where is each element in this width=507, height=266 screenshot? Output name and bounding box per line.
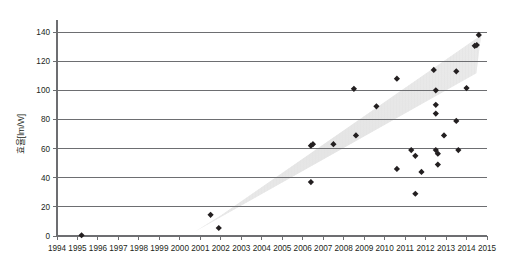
x-tick-label-2001: 2001 <box>191 244 210 253</box>
x-tick-label-2014: 2014 <box>457 244 476 253</box>
data-point <box>433 111 439 117</box>
data-point <box>476 32 482 38</box>
y-tick-label-120: 120 <box>36 57 50 66</box>
scatter-chart: 020406080100120140 199419951996199719981… <box>0 0 507 266</box>
data-point <box>351 86 357 92</box>
x-tick-label-2013: 2013 <box>437 244 456 253</box>
data-point <box>441 132 447 138</box>
trend-band-gradient <box>196 35 482 231</box>
x-tick-label-2004: 2004 <box>253 244 272 253</box>
y-tick-label-80: 80 <box>41 115 51 124</box>
x-tick-label-1997: 1997 <box>109 244 128 253</box>
data-point <box>394 166 400 172</box>
data-point <box>408 147 414 153</box>
data-point <box>453 118 459 124</box>
x-tick-label-2010: 2010 <box>376 244 395 253</box>
data-point <box>412 153 418 159</box>
y-tick-label-0: 0 <box>45 232 50 241</box>
trend-band-shape <box>196 35 482 231</box>
y-tick-label-60: 60 <box>41 145 51 154</box>
y-axis-tick-labels: 020406080100120140 <box>36 28 50 241</box>
data-points <box>78 32 481 239</box>
x-axis-tick-labels: 1994199519961997199819992000200120022003… <box>48 244 497 253</box>
data-point <box>207 212 213 218</box>
x-tick-label-1995: 1995 <box>68 244 87 253</box>
x-tick-label-2002: 2002 <box>212 244 231 253</box>
data-point <box>78 232 84 238</box>
x-tick-label-2008: 2008 <box>335 244 354 253</box>
x-tick-label-1994: 1994 <box>48 244 67 253</box>
x-tick-label-2007: 2007 <box>314 244 333 253</box>
data-point <box>418 169 424 175</box>
x-tick-label-2000: 2000 <box>171 244 190 253</box>
gridlines <box>57 32 487 236</box>
x-tick-label-2015: 2015 <box>478 244 497 253</box>
y-tick-label-40: 40 <box>41 174 51 183</box>
data-point <box>412 191 418 197</box>
data-point <box>216 225 222 231</box>
y-tick-label-100: 100 <box>36 86 50 95</box>
y-axis-title: 효율[lm/W] <box>16 114 26 154</box>
trend-band <box>196 35 482 231</box>
y-axis <box>53 20 57 236</box>
data-point <box>308 179 314 185</box>
x-axis <box>57 236 487 240</box>
data-point <box>433 102 439 108</box>
y-tick-label-140: 140 <box>36 28 50 37</box>
y-tick-label-20: 20 <box>41 203 51 212</box>
x-tick-label-2009: 2009 <box>355 244 374 253</box>
x-tick-label-1998: 1998 <box>130 244 149 253</box>
data-point <box>455 147 461 153</box>
x-tick-label-2011: 2011 <box>396 244 414 253</box>
x-tick-label-2005: 2005 <box>273 244 292 253</box>
x-tick-label-2003: 2003 <box>232 244 251 253</box>
chart-container: 020406080100120140 199419951996199719981… <box>0 0 507 266</box>
x-tick-label-1996: 1996 <box>89 244 108 253</box>
x-tick-label-2012: 2012 <box>416 244 435 253</box>
x-tick-label-1999: 1999 <box>150 244 169 253</box>
data-point <box>394 76 400 82</box>
x-tick-label-2006: 2006 <box>294 244 313 253</box>
data-point <box>435 162 441 168</box>
